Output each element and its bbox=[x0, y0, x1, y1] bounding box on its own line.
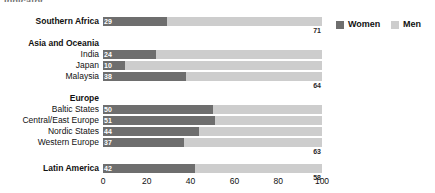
bar-value-men: 71 bbox=[313, 26, 321, 35]
category-label: Western Europe bbox=[0, 138, 99, 147]
clipped-header-text: Indicator bbox=[4, 0, 44, 2]
category-label: Malaysia bbox=[0, 72, 99, 81]
bar-segment-men bbox=[103, 61, 322, 70]
bar-row: 2478 bbox=[103, 50, 322, 59]
bar-row: 5149 bbox=[103, 116, 322, 125]
bar-row: 3763 bbox=[103, 138, 322, 147]
legend-label-men: Men bbox=[403, 20, 421, 29]
bar-value-women: 10 bbox=[104, 61, 112, 70]
bar-segment-women bbox=[103, 164, 195, 173]
bar-row: 2971 bbox=[103, 17, 322, 26]
bar-row: 1090 bbox=[103, 61, 322, 70]
bar-segment-women bbox=[103, 17, 167, 26]
legend-item-women[interactable]: Women bbox=[336, 20, 380, 29]
bar-value-women: 42 bbox=[104, 164, 112, 173]
legend-label-women: Women bbox=[348, 20, 380, 29]
bar-value-men: 64 bbox=[313, 81, 321, 90]
legend-item-men[interactable]: Men bbox=[391, 20, 421, 29]
category-label: Central/East Europe bbox=[0, 116, 99, 125]
axis-tick-label: 80 bbox=[273, 176, 282, 186]
bar-segment-women bbox=[103, 127, 199, 136]
axis-tick-label: 0 bbox=[101, 176, 106, 186]
bar-value-men: 63 bbox=[313, 147, 321, 156]
category-label: India bbox=[0, 50, 99, 59]
category-label: Baltic States bbox=[0, 105, 99, 114]
plot-area: 297124781090386450415149445637634258 bbox=[103, 0, 322, 193]
category-label: Latin America bbox=[0, 164, 99, 173]
category-label: Southern Africa bbox=[0, 17, 99, 26]
bar-segment-women bbox=[103, 138, 184, 147]
bar-value-women: 29 bbox=[104, 17, 112, 26]
bar-row: 5041 bbox=[103, 105, 322, 114]
x-axis: 020406080100 bbox=[103, 176, 322, 190]
legend-swatch-women bbox=[336, 21, 344, 29]
bar-value-women: 24 bbox=[104, 50, 112, 59]
bar-segment-women bbox=[103, 105, 213, 114]
bar-value-women: 44 bbox=[104, 127, 112, 136]
bar-value-women: 37 bbox=[104, 138, 112, 147]
axis-tick-label: 20 bbox=[142, 176, 151, 186]
legend-swatch-men bbox=[391, 21, 399, 29]
bar-value-women: 38 bbox=[104, 72, 112, 81]
axis-tick-label: 100 bbox=[315, 176, 329, 186]
axis-tick-label: 60 bbox=[230, 176, 239, 186]
bar-row: 4456 bbox=[103, 127, 322, 136]
group-header: Asia and Oceania bbox=[0, 39, 99, 48]
category-label: Nordic States bbox=[0, 127, 99, 136]
bar-segment-women bbox=[103, 72, 186, 81]
category-label: Japan bbox=[0, 61, 99, 70]
group-header: Europe bbox=[0, 94, 99, 103]
axis-tick-label: 40 bbox=[186, 176, 195, 186]
stacked-bar-chart: Indicator Women Men Southern AfricaIndia… bbox=[0, 0, 435, 193]
bar-value-women: 50 bbox=[104, 105, 112, 114]
bar-value-women: 51 bbox=[104, 116, 112, 125]
bar-row: 3864 bbox=[103, 72, 322, 81]
bar-segment-women bbox=[103, 116, 215, 125]
bar-row: 4258 bbox=[103, 164, 322, 173]
